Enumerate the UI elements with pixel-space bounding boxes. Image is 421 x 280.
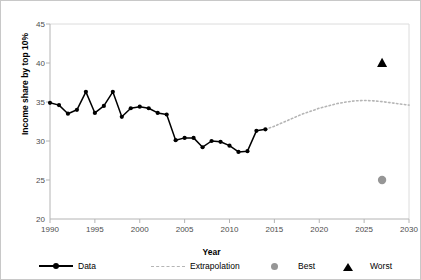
data-point-2002 — [156, 111, 160, 115]
legend-line-dot-icon — [39, 261, 73, 271]
data-point-2012 — [245, 149, 249, 153]
chart-plot-area: Income share by top 10% 202530354045 199… — [1, 1, 421, 249]
x-tick-2025: 2025 — [344, 225, 384, 234]
extrapolation-series-line — [265, 100, 409, 129]
y-tick-35: 35 — [19, 98, 45, 107]
legend-black-triangle-icon — [331, 261, 365, 271]
x-tick-2005: 2005 — [165, 225, 205, 234]
y-axis-title: Income share by top 10% — [20, 14, 30, 154]
legend-item-worst[interactable]: Worst — [331, 257, 392, 275]
x-tick-2010: 2010 — [210, 225, 250, 234]
chart-svg — [1, 1, 421, 249]
chart-frame: Income share by top 10% 202530354045 199… — [0, 0, 421, 280]
data-point-2011 — [236, 150, 240, 154]
y-tick-30: 30 — [19, 137, 45, 146]
chart-legend: DataExtrapolationBestWorst — [1, 249, 421, 280]
data-point-2001 — [147, 106, 151, 110]
data-point-2000 — [138, 105, 142, 109]
data-point-2008 — [209, 139, 213, 143]
x-tick-1995: 1995 — [75, 225, 115, 234]
data-point-1999 — [129, 106, 133, 110]
legend-gray-circle-icon — [259, 261, 293, 271]
y-tick-20: 20 — [19, 215, 45, 224]
x-tick-2015: 2015 — [254, 225, 294, 234]
data-point-1997 — [111, 90, 115, 94]
x-tick-2020: 2020 — [299, 225, 339, 234]
x-tick-2030: 2030 — [389, 225, 421, 234]
data-series-line — [50, 92, 265, 152]
legend-row: DataExtrapolationBestWorst — [1, 257, 421, 277]
data-point-2006 — [192, 136, 196, 140]
data-point-1990 — [48, 101, 52, 105]
data-point-2010 — [227, 144, 231, 148]
worst-marker-point — [377, 58, 387, 67]
data-point-1994 — [84, 90, 88, 94]
data-point-2003 — [165, 112, 169, 116]
best-marker-point — [378, 176, 386, 184]
legend-item-best[interactable]: Best — [259, 257, 315, 275]
legend-item-extrapolation[interactable]: Extrapolation — [151, 257, 240, 275]
legend-label: Data — [78, 261, 96, 271]
legend-label: Worst — [370, 261, 392, 271]
legend-label: Best — [298, 261, 315, 271]
legend-label: Extrapolation — [190, 261, 240, 271]
y-tick-40: 40 — [19, 59, 45, 68]
data-point-1992 — [66, 112, 70, 116]
legend-item-data[interactable]: Data — [39, 257, 96, 275]
data-point-2009 — [218, 140, 222, 144]
data-point-1996 — [102, 104, 106, 108]
data-point-1991 — [57, 103, 61, 107]
data-point-2004 — [174, 138, 178, 142]
data-point-1993 — [75, 108, 79, 112]
x-tick-2000: 2000 — [120, 225, 160, 234]
legend-dashed-line-icon — [151, 261, 185, 271]
data-point-2005 — [183, 136, 187, 140]
x-tick-1990: 1990 — [30, 225, 70, 234]
data-point-2007 — [200, 145, 204, 149]
data-point-1998 — [120, 115, 124, 119]
data-point-2013 — [254, 129, 258, 133]
y-tick-45: 45 — [19, 20, 45, 29]
data-point-2014 — [263, 127, 267, 131]
data-point-1995 — [93, 111, 97, 115]
y-tick-25: 25 — [19, 176, 45, 185]
